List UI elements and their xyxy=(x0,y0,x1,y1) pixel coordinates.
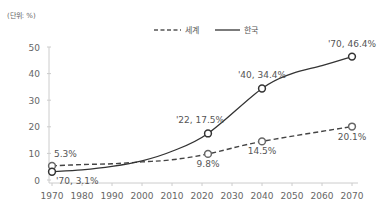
y-tick-label: 20 xyxy=(29,122,41,132)
korea-point-label: '70, 3.1% xyxy=(56,176,99,186)
line-chart: 0102030405019701980199020002010202020302… xyxy=(0,0,388,214)
korea-marker xyxy=(349,53,356,60)
y-tick-label: 0 xyxy=(34,176,40,186)
world-point-label: 20.1% xyxy=(338,132,367,142)
legend-label-world: 세계 xyxy=(185,25,199,35)
x-tick-label: 2060 xyxy=(311,191,334,201)
korea-line xyxy=(52,57,352,172)
x-tick-label: 2020 xyxy=(191,191,214,201)
korea-point-label: '70, 46.4% xyxy=(328,39,377,49)
legend-label-korea: 한국 xyxy=(244,26,258,35)
world-point-label: 5.3% xyxy=(54,149,77,159)
y-tick-label: 50 xyxy=(29,43,41,53)
korea-marker xyxy=(205,130,212,137)
y-tick-label: 10 xyxy=(29,149,41,159)
x-tick-label: 2070 xyxy=(341,191,364,201)
x-tick-label: 1980 xyxy=(71,191,94,201)
world-marker xyxy=(259,138,266,145)
x-tick-label: 2000 xyxy=(131,191,154,201)
x-tick-label: 2040 xyxy=(251,191,274,201)
korea-marker xyxy=(259,85,266,92)
x-tick-label: 2030 xyxy=(221,191,244,201)
y-tick-label: 40 xyxy=(29,69,41,79)
korea-marker xyxy=(49,168,56,175)
x-tick-label: 1990 xyxy=(101,191,124,201)
x-tick-label: 1970 xyxy=(41,191,64,201)
y-tick-label: 30 xyxy=(29,96,41,106)
world-marker xyxy=(349,123,356,130)
x-tick-label: 2010 xyxy=(161,191,184,201)
korea-point-label: '22, 17.5% xyxy=(176,115,225,125)
world-marker xyxy=(205,151,212,158)
korea-point-label: '40, 34.4% xyxy=(238,70,287,80)
world-point-label: 14.5% xyxy=(248,146,277,156)
world-point-label: 9.8% xyxy=(197,159,220,169)
x-tick-label: 2050 xyxy=(281,191,304,201)
